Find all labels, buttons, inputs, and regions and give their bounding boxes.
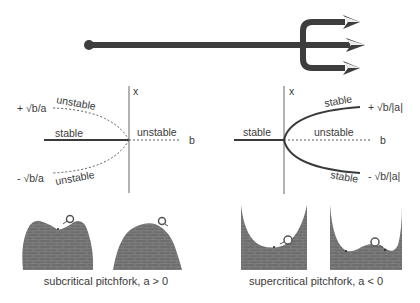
upper-branch-value: + √b/|a| <box>368 101 403 113</box>
right-axis-label: unstable <box>137 126 177 138</box>
lower-branch-label: unstable <box>54 168 95 187</box>
b-axis-label: b <box>189 134 195 146</box>
landscape-supercritical-b-positive <box>330 205 402 270</box>
upper-branch-label: unstable <box>56 93 97 112</box>
landscape-subcritical-b-positive <box>113 218 182 271</box>
ball-icon <box>284 236 292 244</box>
left-axis-label: stable <box>55 127 83 139</box>
x-axis-label: x <box>133 85 139 97</box>
pitchfork-bifurcation-diagram: x + √b/a - √b/a unstable unstable stable… <box>0 0 420 303</box>
upper-branch-label: stable <box>323 92 353 109</box>
x-axis-label: x <box>289 85 295 97</box>
supercritical-caption: supercritical pitchfork, a < 0 <box>249 275 383 287</box>
subcritical-caption: subcritical pitchfork, a > 0 <box>44 275 168 287</box>
trident-icon <box>84 15 365 75</box>
lower-branch-value: - √b/|a| <box>368 170 400 182</box>
upper-branch-value: + √b/a <box>17 102 47 114</box>
b-axis-label: b <box>380 134 386 146</box>
subcritical-bifurcation-plot: x + √b/a - √b/a unstable unstable stable… <box>17 85 195 193</box>
ball-icon <box>371 238 379 246</box>
lower-branch-label: stable <box>330 168 360 185</box>
left-axis-label: stable <box>243 126 271 138</box>
supercritical-bifurcation-plot: x + √b/|a| - √b/|a| stable stable stable… <box>234 85 403 194</box>
landscape-subcritical-b-negative <box>22 216 93 271</box>
right-axis-label: unstable <box>314 126 354 138</box>
lower-branch-value: - √b/a <box>17 172 44 184</box>
landscape-supercritical-b-negative <box>241 205 307 270</box>
ball-icon <box>159 218 166 225</box>
ball-icon <box>67 216 74 223</box>
lower-stable-curve <box>284 140 360 173</box>
